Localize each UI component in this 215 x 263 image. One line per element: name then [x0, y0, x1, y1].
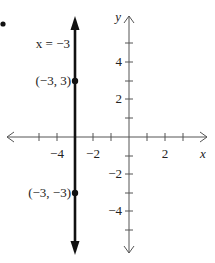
vertical-line-x-neg3 — [71, 16, 80, 255]
bullet-icon — [0, 21, 5, 26]
x-tick-label: 2 — [162, 146, 169, 161]
y-axis — [124, 16, 134, 253]
point-label-upper: (−3, 3) — [36, 73, 72, 88]
y-tick-label: 2 — [116, 91, 123, 106]
y-tick-label: 4 — [116, 54, 123, 69]
x-axis-label: x — [199, 146, 206, 161]
x-tick-label: −4 — [50, 146, 64, 161]
line-arrow-up-icon — [71, 16, 80, 30]
point-label-lower: (−3, −3) — [28, 185, 71, 200]
y-tick-label: −4 — [108, 203, 122, 218]
y-axis-label: y — [113, 9, 121, 24]
y-tick-label: −2 — [108, 166, 122, 181]
coordinate-graph: x = −3 (−3, 3) (−3, −3) y x −4 −2 2 4 2 … — [0, 0, 215, 263]
equation-label: x = −3 — [36, 36, 70, 51]
point-neg3-neg3 — [72, 190, 78, 196]
line-arrow-down-icon — [71, 241, 80, 255]
x-tick-label: −2 — [86, 146, 100, 161]
point-neg3-3 — [72, 78, 78, 84]
x-axis — [7, 132, 207, 142]
